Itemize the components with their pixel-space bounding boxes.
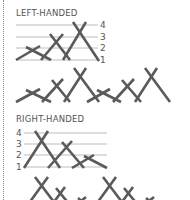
left-handed-stitches <box>16 22 99 61</box>
stitch-diagram: 4 3 2 1 4 3 2 1 <box>0 0 190 200</box>
right-row-label-2: 2 <box>16 150 22 160</box>
right-row-label-3: 3 <box>16 139 22 149</box>
left-row-label-1: 1 <box>100 55 106 65</box>
right-handed-pattern-row <box>24 177 160 200</box>
right-handed-grid: 4 3 2 1 <box>16 128 107 172</box>
right-row-label-1: 1 <box>16 162 22 172</box>
right-row-label-4: 4 <box>16 128 22 138</box>
left-row-label-2: 2 <box>100 43 106 53</box>
right-handed-stitches <box>24 131 107 168</box>
left-row-label-3: 3 <box>100 32 106 42</box>
left-handed-pattern-row <box>16 68 170 102</box>
left-row-label-4: 4 <box>100 20 106 30</box>
left-handed-grid: 4 3 2 1 <box>16 20 106 65</box>
